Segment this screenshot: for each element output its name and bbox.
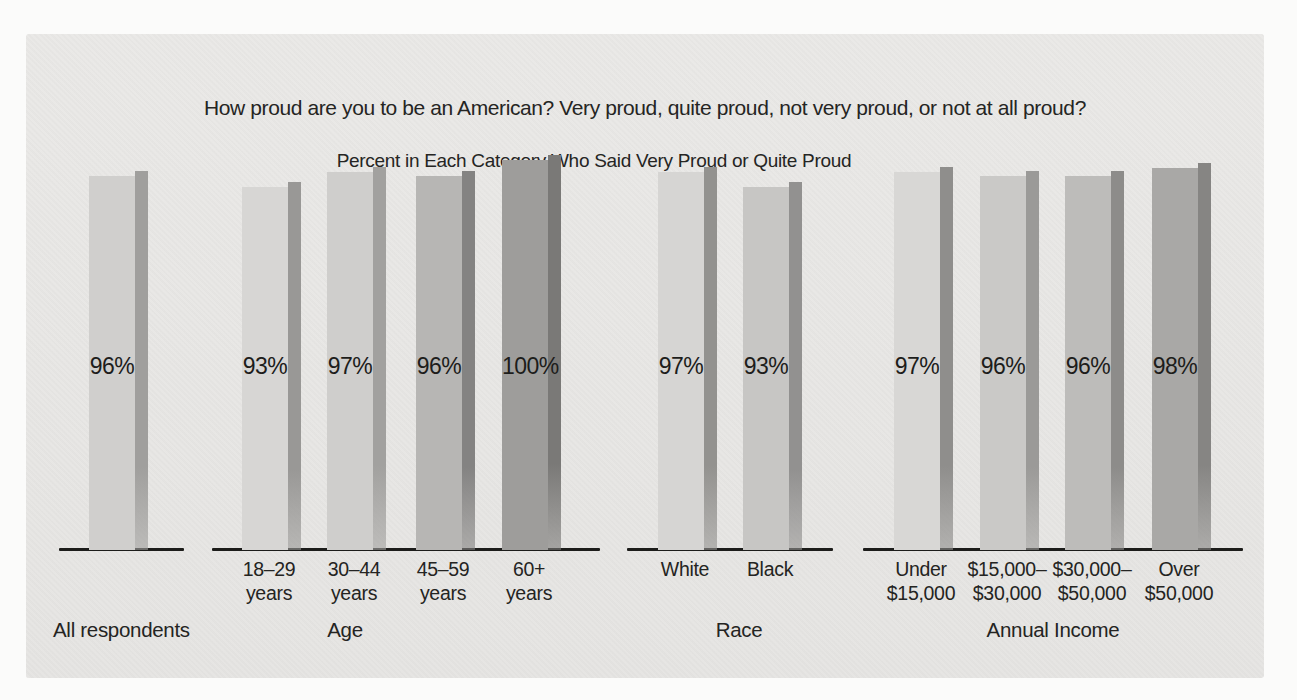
bar-shadow-strip xyxy=(288,182,301,550)
group-label: Annual Income xyxy=(987,618,1120,642)
group-label: Age xyxy=(327,618,363,642)
bar-shadow-strip xyxy=(940,167,953,550)
bar-shadow-strip xyxy=(373,167,386,550)
tick-label: Black xyxy=(700,557,840,581)
bar: 97% xyxy=(327,172,386,550)
bar: 93% xyxy=(242,187,301,550)
bar-value-label: 96% xyxy=(416,353,462,380)
bar-value-label: 96% xyxy=(1065,353,1111,380)
bar: 97% xyxy=(894,172,953,550)
scanned-page: How proud are you to be an American? Ver… xyxy=(0,0,1297,700)
bar-shadow-strip xyxy=(1111,171,1124,550)
bar-shadow-strip xyxy=(462,171,475,550)
bar-shadow-strip xyxy=(704,167,717,550)
bar-value-label: 98% xyxy=(1152,353,1198,380)
bar: 96% xyxy=(980,176,1039,550)
chart-subtitle: Percent in Each Category Who Said Very P… xyxy=(337,150,852,172)
bar-value-label: 93% xyxy=(242,353,288,380)
bar-value-label: 96% xyxy=(980,353,1026,380)
chart-title: How proud are you to be an American? Ver… xyxy=(26,96,1264,120)
group-label: Race xyxy=(716,618,763,642)
bar-value-label: 100% xyxy=(502,353,548,380)
bar-shadow-strip xyxy=(135,171,148,550)
tick-label: 60+ years xyxy=(459,557,599,605)
bar-value-label: 97% xyxy=(658,353,704,380)
bar-shadow-strip xyxy=(1198,163,1211,550)
bar-value-label: 97% xyxy=(327,353,373,380)
bar: 96% xyxy=(416,176,475,550)
bar: 100% xyxy=(502,160,561,550)
bar: 96% xyxy=(89,176,148,550)
bar-value-label: 97% xyxy=(894,353,940,380)
bar-shadow-strip xyxy=(1026,171,1039,550)
group-label: All respondents xyxy=(53,618,190,642)
bar-value-label: 96% xyxy=(89,353,135,380)
tick-label: Over $50,000 xyxy=(1109,557,1249,605)
bar-value-label: 93% xyxy=(743,353,789,380)
bar: 97% xyxy=(658,172,717,550)
bar: 96% xyxy=(1065,176,1124,550)
bar: 98% xyxy=(1152,168,1211,550)
bar: 93% xyxy=(743,187,802,550)
bar-shadow-strip xyxy=(789,182,802,550)
